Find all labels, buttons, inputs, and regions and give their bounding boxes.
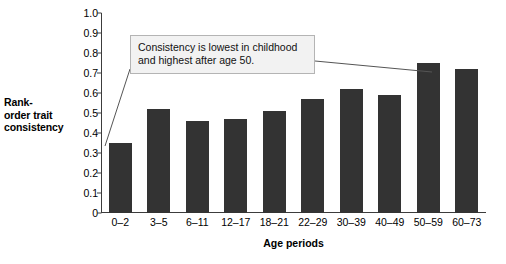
y-axis-tick-label: 0.7 [70, 67, 98, 79]
bar [378, 95, 401, 213]
y-axis-tick-label: 0.6 [70, 87, 98, 99]
y-axis-tick-label: 0.8 [70, 47, 98, 59]
bar [109, 143, 132, 213]
bar [455, 69, 478, 213]
y-axis-tick-label: 0.4 [70, 127, 98, 139]
y-axis-tick-label: 0 [70, 207, 98, 219]
y-axis-tick-label: 0.9 [70, 27, 98, 39]
bar [340, 89, 363, 213]
x-axis-tick-label: 12–17 [221, 216, 250, 228]
y-axis-tick-label: 0.3 [70, 147, 98, 159]
x-axis-tick-label: 18–21 [260, 216, 289, 228]
x-axis-tick-label: 6–11 [186, 216, 209, 228]
annotation-text-line-1: Consistency is lowest in childhood [138, 41, 307, 54]
x-axis-tick-label: 30–39 [337, 216, 366, 228]
bar [263, 111, 286, 213]
x-axis-tick-label: 3–5 [150, 216, 168, 228]
y-axis-tick-label: 0.2 [70, 167, 98, 179]
x-axis-tick-label: 22–29 [298, 216, 327, 228]
y-axis-title-line-2: order trait [4, 109, 70, 122]
x-axis-tick-label: 0–2 [111, 216, 129, 228]
bar [301, 99, 324, 213]
y-axis-title-line-1: Rank- [4, 96, 70, 109]
x-axis-title: Age periods [101, 237, 486, 249]
annotation-text-line-2: and highest after age 50. [138, 54, 307, 67]
y-axis-title: Rank- order trait consistency [4, 96, 70, 134]
y-axis-title-line-3: consistency [4, 121, 70, 134]
y-axis-tick-labels: 00.10.20.30.40.50.60.70.80.91.0 [70, 0, 98, 264]
x-axis-tick-label: 40–49 [375, 216, 404, 228]
bar [186, 121, 209, 213]
bar-chart: Rank- order trait consistency 00.10.20.3… [0, 0, 506, 264]
y-axis-tick-label: 1.0 [70, 7, 98, 19]
y-axis-tick-label: 0.5 [70, 107, 98, 119]
bar [147, 109, 170, 213]
y-axis-tick-label: 0.1 [70, 187, 98, 199]
x-axis-tick-labels: 0–23–56–1112–1718–2122–2930–3940–4950–59… [101, 216, 486, 232]
bar [417, 63, 440, 213]
x-axis-tick-label: 60–73 [452, 216, 481, 228]
x-axis-tick-label: 50–59 [414, 216, 443, 228]
bar [224, 119, 247, 213]
annotation-callout: Consistency is lowest in childhood and h… [130, 35, 315, 74]
